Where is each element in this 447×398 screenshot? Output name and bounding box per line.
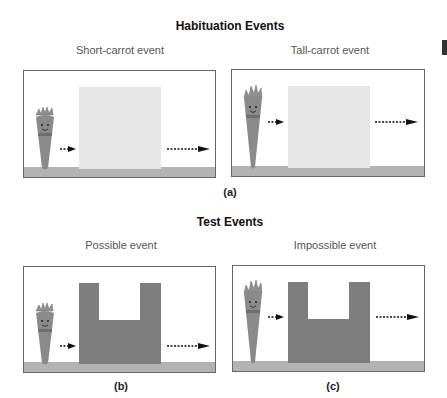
arrow-right-icon — [60, 343, 76, 349]
dotted-arrow-right-icon — [375, 119, 418, 125]
short-carrot-label: Short-carrot event — [76, 44, 164, 56]
scene-graphic — [233, 266, 425, 372]
panel-short-carrot-habituation — [23, 70, 216, 178]
possible-event-label: Possible event — [85, 239, 157, 251]
dotted-arrow-right-icon — [167, 343, 210, 349]
carrot-icon — [36, 303, 54, 365]
caption-b: (b) — [114, 380, 128, 392]
light-screen — [79, 87, 161, 169]
test-title: Test Events — [197, 215, 263, 229]
scene-graphic — [24, 71, 216, 178]
caption-c: (c) — [326, 380, 339, 392]
panel-impossible-event — [232, 265, 425, 372]
scene-graphic — [24, 267, 216, 373]
tall-carrot-label: Tall-carrot event — [291, 44, 369, 56]
dotted-arrow-right-icon — [167, 146, 210, 152]
light-screen — [288, 86, 370, 168]
carrot-icon — [244, 280, 262, 364]
notched-screen — [79, 283, 161, 364]
arrow-right-icon — [268, 314, 284, 320]
panel-possible-event — [23, 266, 216, 373]
impossible-event-label: Impossible event — [294, 239, 377, 251]
notched-screen — [288, 282, 370, 363]
dotted-arrow-right-icon — [376, 314, 419, 320]
caption-a: (a) — [223, 186, 236, 198]
carrot-icon — [36, 107, 54, 170]
carrot-icon — [244, 85, 262, 169]
arrow-right-icon — [268, 119, 284, 125]
scene-graphic — [232, 70, 425, 177]
habituation-title: Habituation Events — [176, 19, 285, 33]
page-edge-marker — [442, 40, 447, 55]
panel-tall-carrot-habituation — [231, 69, 425, 177]
arrow-right-icon — [60, 146, 76, 152]
